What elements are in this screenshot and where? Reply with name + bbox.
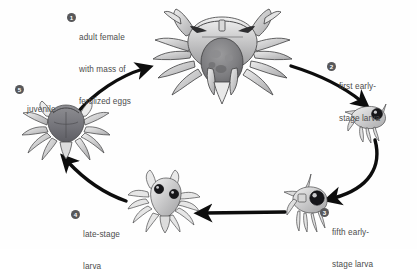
stage-label-1: 1 adult female with mass of fertilized e… (67, 12, 131, 129)
stage-label-4-text: late-stage larva (83, 209, 120, 273)
stage-label-3: 3 fifth early- stage larva (320, 207, 373, 273)
stage-label-2-line-1: first early- (339, 82, 380, 93)
stage-label-1-line-1: adult female (79, 33, 131, 44)
stage-label-4-line-2: larva (83, 262, 120, 273)
stage-label-1-text: adult female with mass of fertilized egg… (79, 12, 131, 129)
stage-bullet-5: 5 (15, 85, 24, 94)
stage-label-5-line-1: juvenile (27, 105, 56, 116)
stage-label-4-line-1: late-stage (83, 230, 120, 241)
stage-bullet-2: 2 (327, 62, 336, 71)
late-stage-larva (126, 168, 204, 234)
stage-label-3-line-2: stage larva (332, 260, 373, 271)
stage-label-4: 4 late-stage larva (71, 209, 120, 273)
stage-label-5: 5 juvenile (15, 84, 56, 137)
stage-bullet-3: 3 (320, 208, 329, 217)
stage-label-3-text: fifth early- stage larva (332, 207, 373, 273)
arrow-first-to-fifth-larva (334, 140, 377, 198)
stage-label-2-text: first early- stage larva (339, 61, 380, 146)
arrow-fifth-larva-to-late-larva (205, 212, 285, 213)
stage-bullet-1: 1 (67, 13, 76, 22)
stage-label-1-line-3: fertilized eggs (79, 97, 131, 108)
adult-female-crab-with-eggs (150, 6, 295, 108)
stage-label-1-line-2: with mass of (79, 65, 131, 76)
stage-label-5-text: juvenile (27, 84, 56, 137)
stage-label-2-line-2: stage larva (339, 114, 380, 125)
stage-label-2: 2 first early- stage larva (327, 61, 380, 146)
stage-label-3-line-1: fifth early- (332, 228, 373, 239)
arrow-late-larva-to-juvenile (68, 162, 126, 201)
stage-bullet-4: 4 (71, 210, 80, 219)
